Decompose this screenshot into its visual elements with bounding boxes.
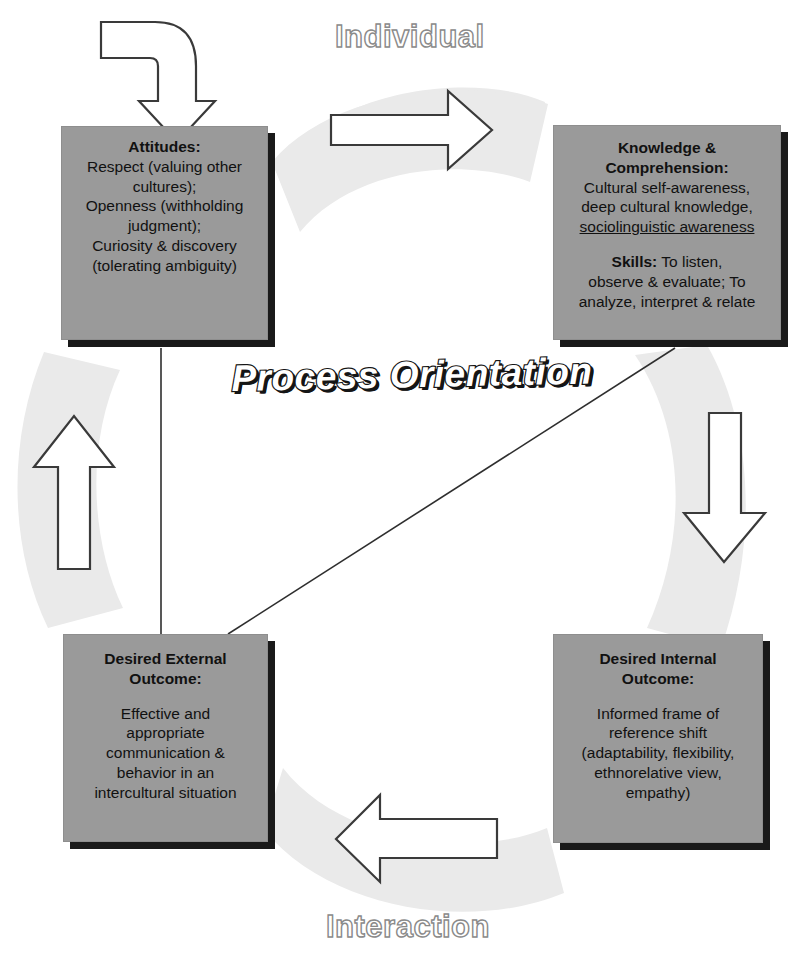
node-knowledge-comprehension[interactable]: Knowledge & Comprehension: Cultural self… [553,125,781,340]
node-knowledge-line: deep cultural knowledge, [560,197,774,217]
page-title: Process Orientation [231,350,593,400]
node-knowledge-line: observe & evaluate; To [560,272,774,292]
skills-label: Skills: [612,253,658,270]
cycle-label-interaction: Interaction [326,909,490,945]
band-bottom [264,768,564,912]
node-knowledge-line: Knowledge & [560,138,774,158]
node-attitudes[interactable]: Attitudes: Respect (valuing other cultur… [61,126,268,340]
node-external-line: appropriate [70,723,261,743]
arrow-down-icon [684,413,765,562]
node-attitudes-line: Openness (withholding [68,196,261,216]
process-orientation-diagram: Individual Interaction Process Orientati… [0,0,811,960]
node-attitudes-line: Respect (valuing other [68,157,261,177]
node-knowledge-line: Cultural self-awareness, [560,178,774,198]
node-external-line: behavior in an [70,763,261,783]
node-internal-line: Outcome: [560,669,756,689]
band-left [17,352,123,628]
node-external-line: Outcome: [70,669,261,689]
node-attitudes-line: cultures); [68,177,261,197]
node-internal-spacer [560,689,756,704]
arrow-right-icon [331,91,492,169]
node-knowledge-line: analyze, interpret & relate [560,292,774,312]
node-external-line: Desired External [70,649,261,669]
node-attitudes-line: judgment); [68,216,261,236]
node-internal-line: ethnorelative view, [560,763,756,783]
node-external-spacer [70,689,261,704]
node-knowledge-line: Comprehension: [560,158,774,178]
cycle-label-individual: Individual [335,19,485,55]
arrow-left-icon [336,795,497,882]
node-desired-internal-outcome[interactable]: Desired Internal Outcome: Informed frame… [553,634,763,843]
node-external-line: communication & [70,743,261,763]
skills-rest: To listen, [657,253,722,270]
band-top-2 [272,90,548,232]
node-knowledge-line: sociolinguistic awareness [560,217,774,237]
entry-bent-arrow-icon [101,22,215,142]
node-knowledge-spacer [560,237,774,252]
node-attitudes-line: Attitudes: [68,137,261,157]
node-knowledge-line: Skills: To listen, [560,252,774,272]
node-internal-line: Desired Internal [560,649,756,669]
node-attitudes-line: (tolerating ambiguity) [68,256,261,276]
node-internal-line: Informed frame of [560,704,756,724]
node-internal-line: empathy) [560,783,756,803]
arrow-up-icon [34,416,114,569]
node-internal-line: reference shift [560,723,756,743]
band-top [275,87,545,220]
node-desired-external-outcome[interactable]: Desired External Outcome: Effective and … [63,634,268,842]
node-external-line: Effective and [70,704,261,724]
node-external-line: intercultural situation [70,783,261,803]
band-right [635,345,746,648]
node-attitudes-line: Curiosity & discovery [68,236,261,256]
node-internal-line: (adaptability, flexibility, [560,743,756,763]
